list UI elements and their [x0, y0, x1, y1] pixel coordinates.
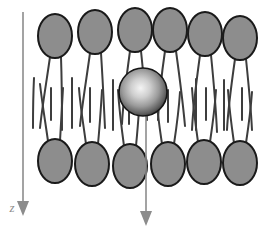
- lipid-headgroup: [188, 12, 222, 56]
- lipid-headgroup: [78, 10, 112, 54]
- tail-stub: [33, 78, 34, 128]
- figure-root: z: [0, 0, 262, 233]
- z-axis-label: z: [8, 200, 14, 215]
- lipid-headgroup: [187, 140, 221, 184]
- lipid-headgroup: [75, 142, 109, 186]
- lipid-headgroup: [223, 141, 257, 185]
- lipid-headgroup: [113, 144, 147, 188]
- lipid-headgroup: [118, 8, 152, 52]
- lipid-headgroup: [38, 139, 72, 183]
- permeant-sphere: [119, 68, 167, 116]
- lipid-headgroup: [151, 142, 185, 186]
- bilayer-diagram: z: [0, 0, 262, 233]
- lipid-headgroup: [38, 14, 72, 58]
- lipid-headgroup: [153, 8, 187, 52]
- lipid-headgroup: [223, 16, 257, 60]
